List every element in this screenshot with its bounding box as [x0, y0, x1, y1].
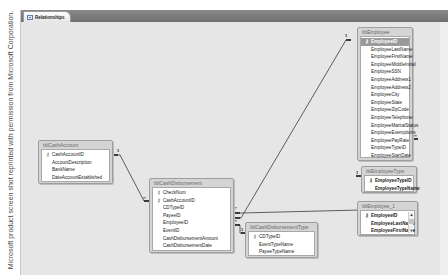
- field-list: ⚷EmployeeTypeID EmployeeTypeName: [364, 175, 414, 192]
- table-title: tblEmployeeType: [364, 167, 414, 175]
- field-row[interactable]: ⚷CashAccountID: [153, 197, 230, 205]
- rel-many-label: ∞: [234, 219, 237, 223]
- rel-one-label: 1: [345, 34, 347, 38]
- rel-one-label: 1: [117, 149, 119, 153]
- field-row[interactable]: EmployeeLastName: [361, 220, 414, 228]
- table-title: tblEmployee: [360, 28, 410, 36]
- rel-many-label: ∞: [234, 206, 237, 210]
- field-list: ⚷CheckNum ⚷CashAccountID CDTypeID PayeeI…: [152, 187, 231, 251]
- field-row[interactable]: EmployeeFirstName: [361, 53, 409, 61]
- field-row[interactable]: EmployeeSSN: [361, 68, 409, 76]
- field-row[interactable]: EmployeeAddress2: [361, 84, 409, 92]
- field-row[interactable]: EventID: [153, 227, 230, 235]
- vertical-scrollbar[interactable]: [440, 22, 448, 275]
- field-row[interactable]: EmployeeMiddleInitial: [361, 61, 409, 69]
- field-row[interactable]: AccountDescription: [42, 159, 109, 167]
- scroll-down-arrow-icon[interactable]: ▼: [409, 228, 414, 233]
- field-row[interactable]: CashDisbursementDate: [153, 242, 230, 250]
- field-row[interactable]: EmployeePayRate: [361, 137, 409, 145]
- tab-label: Relationships: [35, 15, 65, 20]
- table-title: tblEmployee_1: [360, 202, 415, 210]
- table-title: tblCashDisbursementType: [248, 223, 315, 231]
- field-list: ⚷EmployeeID EmployeeLastName EmployeeFir…: [360, 210, 415, 235]
- field-row[interactable]: ⚷EmployeeID: [361, 38, 409, 46]
- document-tab-bar: Relationships: [21, 10, 448, 22]
- permission-credit: Microsoft product screen shot reprinted …: [0, 0, 20, 279]
- field-row[interactable]: BankName: [42, 166, 109, 174]
- field-list-scrollbar[interactable]: ▲ ▼: [408, 212, 413, 233]
- rel-one-label: 1: [241, 228, 243, 232]
- field-row[interactable]: EmployeeTelephone: [361, 114, 409, 122]
- rel-many-label: ∞: [143, 196, 146, 200]
- field-row[interactable]: EmployeeStartDate: [361, 152, 409, 160]
- field-row[interactable]: EmployeeExemptions: [361, 129, 409, 137]
- field-row[interactable]: DateAccountEstablished: [42, 174, 109, 182]
- field-row[interactable]: EmployeeMaritalStatus: [361, 122, 409, 130]
- field-row[interactable]: CashDisbursementAmount: [153, 235, 230, 243]
- primary-key-icon: ⚷: [157, 190, 161, 195]
- field-row[interactable]: EmployeeLastName: [361, 46, 409, 54]
- field-row[interactable]: ⚷EmployeeID: [361, 212, 414, 220]
- field-row[interactable]: ⚷CDTypeID: [249, 233, 314, 241]
- table-title: tblCashDisbursement: [152, 179, 231, 187]
- table-employee[interactable]: tblEmployee ⚷EmployeeID EmployeeLastName…: [357, 27, 413, 161]
- scroll-up-arrow-icon[interactable]: ▲: [409, 212, 414, 217]
- field-row[interactable]: CDTypeID: [153, 204, 230, 212]
- scroll-thumb[interactable]: [409, 219, 414, 224]
- field-row[interactable]: ⚷EmployeeTypeID: [365, 177, 413, 185]
- relationships-icon: [27, 15, 33, 20]
- primary-key-icon: ⚷: [365, 213, 369, 218]
- field-row[interactable]: EmployeeTypeID: [361, 144, 409, 152]
- field-list: ⚷EmployeeID EmployeeLastName EmployeeFir…: [360, 36, 410, 158]
- field-row[interactable]: ⚷CashAccountID: [42, 151, 109, 159]
- field-list: ⚷CashAccountID AccountDescription BankNa…: [41, 149, 110, 182]
- primary-key-icon: ⚷: [157, 198, 161, 203]
- field-row[interactable]: ⚷CheckNum: [153, 189, 230, 197]
- field-list: ⚷CDTypeID EventTypeName PayeeTypeName: [248, 231, 315, 256]
- field-row[interactable]: EmployeeFirstName: [361, 227, 414, 235]
- field-row[interactable]: EmployeeState: [361, 99, 409, 107]
- field-row[interactable]: EmployeeID: [153, 219, 230, 227]
- primary-key-icon: ⚷: [46, 152, 50, 157]
- table-cash-account[interactable]: tblCashAccount ⚷CashAccountID AccountDes…: [38, 140, 113, 184]
- table-employee-1[interactable]: tblEmployee_1 ⚷EmployeeID EmployeeLastNa…: [357, 201, 418, 236]
- field-row[interactable]: EmployeeCity: [361, 91, 409, 99]
- tab-relationships[interactable]: Relationships: [23, 11, 71, 22]
- table-employee-type[interactable]: tblEmployeeType ⚷EmployeeTypeID Employee…: [361, 166, 417, 193]
- primary-key-icon: ⚷: [253, 234, 257, 239]
- primary-key-icon: ⚷: [365, 39, 369, 44]
- table-title: tblCashAccount: [41, 141, 110, 149]
- credit-text: Microsoft product screen shot reprinted …: [7, 10, 14, 268]
- rel-one-label: 1: [356, 171, 358, 175]
- field-row[interactable]: PayeeID: [153, 212, 230, 220]
- field-row[interactable]: EventTypeName: [249, 241, 314, 249]
- field-row[interactable]: EmployeeZipCode: [361, 106, 409, 114]
- table-cash-disbursement[interactable]: tblCashDisbursement ⚷CheckNum ⚷CashAccou…: [149, 178, 234, 253]
- primary-key-icon: ⚷: [369, 178, 373, 183]
- field-row[interactable]: EmployeeTypeName: [365, 185, 413, 193]
- table-cash-disbursement-type[interactable]: tblCashDisbursementType ⚷CDTypeID EventT…: [245, 222, 318, 258]
- field-row[interactable]: EmployeeAddress1: [361, 76, 409, 84]
- field-row[interactable]: PayeeTypeName: [249, 248, 314, 256]
